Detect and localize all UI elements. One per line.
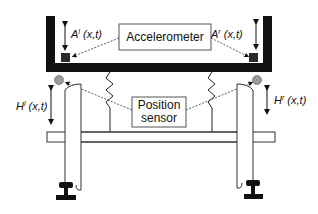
position-sensor-label-box: Position sensor — [132, 97, 186, 127]
position-label-line1: Position — [138, 98, 181, 112]
position-sensor-right — [253, 76, 262, 85]
wheel-right — [237, 84, 253, 188]
rail-left — [56, 182, 76, 200]
a-left-label: Al (x,t) — [70, 28, 102, 40]
rail-vehicle-diagram: Accelerometer Al (x,t) Ar (x,t) Position… — [0, 0, 318, 214]
accelerometer-right — [249, 53, 258, 62]
a-right-label: Ar (x,t) — [210, 28, 243, 40]
accelerometer-label: Accelerometer — [126, 30, 203, 44]
pointer-accel-right — [211, 38, 247, 56]
rail-right — [244, 180, 263, 199]
accelerometer-label-box: Accelerometer — [119, 24, 211, 50]
pointer-accel-left — [74, 38, 119, 56]
h-right-label: Hr (x,t) — [274, 94, 307, 106]
accelerometer-left — [61, 53, 70, 62]
spring-right — [208, 72, 215, 132]
wheel-left — [65, 84, 81, 190]
position-label-line2: sensor — [141, 111, 177, 125]
position-sensor-left — [55, 76, 64, 85]
h-left-label: Hl (x,t) — [16, 100, 48, 112]
